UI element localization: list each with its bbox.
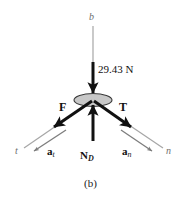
force-label-N-base: N [80, 149, 88, 161]
axis-label-b: b [89, 12, 94, 22]
axis-label-n: n [166, 146, 171, 156]
force-label-N-D: ND [80, 146, 94, 163]
accel-label-a-n-subscript: n [128, 150, 132, 159]
accel-label-a-t-subscript: t [53, 150, 55, 159]
figure-caption: (b) [84, 178, 97, 189]
weight-magnitude-label: 29.43 N [98, 64, 133, 75]
accel-label-a-t: at [47, 142, 55, 159]
force-label-F: F [59, 101, 66, 113]
force-label-T: T [119, 101, 127, 113]
axis-label-t: t [15, 146, 18, 156]
free-body-diagram-figure: b 29.43 N F T ND at an t n (b) [0, 0, 186, 203]
drum-ellipse [74, 94, 112, 107]
diagram-canvas [0, 0, 186, 203]
force-label-N-subscript: D [88, 154, 94, 163]
accel-label-a-n: an [122, 142, 132, 159]
